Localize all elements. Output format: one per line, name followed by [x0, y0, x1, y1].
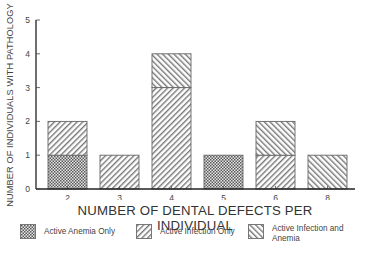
- y-tick-label: 0: [25, 184, 30, 194]
- bar-segment-2: [48, 155, 87, 189]
- bar-chart: 234568012345: [0, 0, 370, 200]
- x-tick-label: 6: [273, 193, 278, 200]
- crosshatch-swatch-icon: [20, 224, 36, 239]
- legend-item-anemia-only: Active Anemia Only: [20, 224, 115, 239]
- legend-label: Active Anemia Only: [44, 224, 115, 237]
- y-tick-label: 3: [25, 83, 30, 93]
- legend-item-infection-and-anemia: Active Infection and Anemia: [248, 224, 367, 244]
- forward-diagonal-swatch-icon: [136, 224, 152, 239]
- bar-segment-5: [204, 155, 243, 189]
- backward-diagonal-swatch-icon: [248, 224, 264, 239]
- bar-segment-8: [308, 155, 347, 189]
- y-tick-label: 4: [25, 49, 30, 59]
- legend-label: Active Infection Only: [160, 224, 235, 237]
- y-tick-label: 1: [25, 150, 30, 160]
- legend: Active Anemia Only Active Infection Only…: [0, 222, 370, 252]
- x-tick-label: 5: [221, 193, 226, 200]
- bar-segment-4: [152, 88, 191, 189]
- y-axis-label: NUMBER OF INDIVIDUALS WITH PATHOLOGY: [3, 20, 17, 190]
- y-tick-label: 2: [25, 116, 30, 126]
- bars-group: [48, 54, 347, 189]
- legend-label: Active Infection and Anemia: [272, 224, 367, 244]
- y-axis-label-text: NUMBER OF INDIVIDUALS WITH PATHOLOGY: [5, 3, 15, 206]
- bar-segment-3: [100, 155, 139, 189]
- bar-segment-4: [152, 54, 191, 88]
- x-tick-label: 3: [117, 193, 122, 200]
- bar-segment-6: [256, 121, 295, 155]
- x-tick-label: 8: [325, 193, 330, 200]
- legend-item-infection-only: Active Infection Only: [136, 224, 235, 239]
- x-tick-label: 2: [65, 193, 70, 200]
- bar-segment-2: [48, 121, 87, 155]
- bar-segment-6: [256, 155, 295, 189]
- y-tick-label: 5: [25, 15, 30, 25]
- x-tick-label: 4: [169, 193, 174, 200]
